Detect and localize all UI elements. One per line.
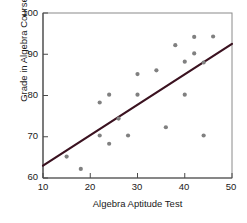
scatter-plot-figure: Grade in Algebra Course Algebra Aptitude… xyxy=(0,0,247,223)
data-point xyxy=(135,93,139,97)
data-point xyxy=(154,68,158,72)
data-point xyxy=(183,93,187,97)
data-point xyxy=(126,133,130,137)
data-point xyxy=(107,93,111,97)
data-point xyxy=(107,142,111,146)
data-point xyxy=(135,72,139,76)
data-point xyxy=(117,117,121,121)
plot-canvas xyxy=(0,0,247,223)
data-point xyxy=(202,133,206,137)
data-point xyxy=(202,60,206,64)
data-point xyxy=(173,43,177,47)
data-point xyxy=(192,35,196,39)
data-point xyxy=(183,60,187,64)
data-point xyxy=(98,100,102,104)
data-point xyxy=(98,133,102,137)
data-point xyxy=(79,167,83,171)
data-point xyxy=(211,34,215,38)
data-point xyxy=(192,51,196,55)
data-point xyxy=(164,125,168,129)
data-point xyxy=(65,154,69,158)
